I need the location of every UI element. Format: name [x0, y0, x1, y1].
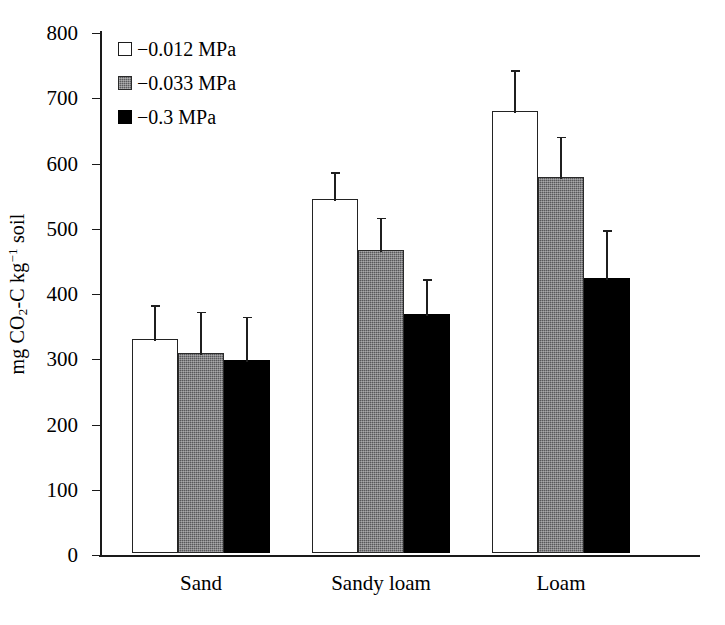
error-bar-stem [380, 218, 382, 252]
y-axis-title-subscript: 2 [15, 309, 30, 316]
open-square-icon [118, 42, 132, 56]
x-axis-category-label: Sand [180, 571, 222, 595]
filled-square-icon [118, 110, 132, 124]
error-bar-cap [511, 70, 520, 72]
error-bar-stem [606, 230, 608, 280]
bar [358, 250, 404, 553]
legend-item[interactable]: −0.012 MPa [118, 32, 348, 66]
bar [538, 177, 584, 553]
y-axis-tick: 800 [92, 33, 100, 34]
bar [312, 199, 358, 553]
error-bar-stem [514, 70, 516, 112]
bar-chart-figure: mg CO2-C kg−1 soil 010020030040050060070… [0, 0, 725, 625]
y-axis-tick: 600 [92, 164, 100, 165]
bar [492, 111, 538, 553]
bar [132, 339, 178, 553]
y-axis-title-mid: -C kg [6, 263, 28, 309]
error-bar-stem [200, 312, 202, 355]
y-axis-tick-label: 0 [68, 543, 79, 567]
y-axis-tick: 0 [92, 555, 100, 556]
y-axis-tick-label: 700 [47, 86, 79, 110]
y-axis-tick: 100 [92, 490, 100, 491]
y-axis-tick: 500 [92, 229, 100, 230]
error-bar-stem [560, 137, 562, 179]
x-axis-line [99, 555, 700, 557]
x-axis-category-label: Loam [537, 571, 586, 595]
legend-item[interactable]: −0.033 MPa [118, 66, 348, 100]
bar [178, 353, 224, 553]
legend-item-label: −0.012 MPa [137, 38, 236, 60]
y-axis-title-suffix: soil [6, 213, 28, 248]
error-bar-cap [197, 312, 206, 314]
y-axis-line [100, 31, 102, 555]
error-bar-cap [331, 172, 340, 174]
y-axis-tick-label: 600 [47, 152, 79, 176]
y-axis-tick: 400 [92, 294, 100, 295]
y-axis-tick-label: 800 [47, 21, 79, 45]
stippled-square-icon [118, 76, 132, 90]
y-axis-tick: 300 [92, 359, 100, 360]
error-bar-stem [154, 305, 156, 341]
y-axis-title: mg CO2-C kg−1 soil [0, 33, 26, 555]
error-bar-stem [426, 279, 428, 316]
legend-item-label: −0.3 MPa [137, 106, 216, 128]
error-bar-cap [423, 279, 432, 281]
y-axis-title-prefix: mg CO [6, 315, 28, 374]
error-bar-stem [334, 172, 336, 201]
y-axis-tick-label: 400 [47, 282, 79, 306]
error-bar-cap [557, 137, 566, 139]
error-bar-cap [603, 230, 612, 232]
bar [584, 278, 630, 553]
error-bar-cap [243, 317, 252, 319]
error-bar-stem [246, 317, 248, 362]
legend-item[interactable]: −0.3 MPa [118, 100, 348, 134]
legend-item-label: −0.033 MPa [137, 72, 236, 94]
y-axis-tick: 200 [92, 425, 100, 426]
error-bar-cap [377, 218, 386, 220]
y-axis-tick: 700 [92, 98, 100, 99]
bar [404, 314, 450, 553]
x-axis-category-label: Sandy loam [331, 571, 431, 595]
legend: −0.012 MPa−0.033 MPa−0.3 MPa [118, 32, 348, 134]
bar [224, 360, 270, 553]
y-axis-tick-label: 300 [47, 347, 79, 371]
y-axis-tick-label: 100 [47, 478, 79, 502]
y-axis-tick-label: 500 [47, 217, 79, 241]
error-bar-cap [151, 305, 160, 307]
y-axis-tick-label: 200 [47, 413, 79, 437]
y-axis-title-superscript: −1 [5, 248, 20, 262]
